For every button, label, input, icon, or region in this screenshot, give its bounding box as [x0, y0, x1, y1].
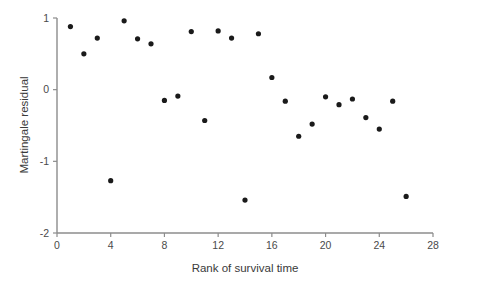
data-point [390, 99, 395, 104]
data-point [95, 35, 100, 40]
data-point [189, 29, 194, 34]
x-tick-label: 24 [373, 239, 385, 251]
data-point [336, 102, 341, 107]
y-tick-label: 0 [43, 83, 49, 95]
x-tick-label: 16 [266, 239, 278, 251]
data-point [202, 118, 207, 123]
data-point [122, 18, 127, 23]
data-point [363, 115, 368, 120]
y-tick-label: 1 [43, 12, 49, 24]
data-point [283, 99, 288, 104]
y-axis-title: Martingale residual [18, 76, 30, 173]
data-point [296, 134, 301, 139]
x-tick-label: 20 [320, 239, 332, 251]
y-axis-ticks: 10-1-2 [40, 12, 57, 239]
data-point [68, 24, 73, 29]
x-tick-label: 4 [108, 239, 114, 251]
data-point [216, 28, 221, 33]
data-point-group [68, 18, 409, 202]
data-point [404, 194, 409, 199]
data-point [135, 36, 140, 41]
x-tick-label: 12 [212, 239, 224, 251]
data-point [175, 94, 180, 99]
data-point [81, 51, 86, 56]
x-tick-label: 28 [427, 239, 439, 251]
data-point [148, 41, 153, 46]
data-point [350, 96, 355, 101]
x-tick-label: 0 [54, 239, 60, 251]
data-point [269, 75, 274, 80]
data-point [108, 178, 113, 183]
data-point [256, 31, 261, 36]
data-point [323, 94, 328, 99]
y-tick-label: -1 [40, 155, 49, 167]
data-point [377, 126, 382, 131]
data-point [242, 197, 247, 202]
x-tick-label: 8 [162, 239, 168, 251]
x-axis-title: Rank of survival time [192, 262, 299, 274]
y-tick-label: -2 [40, 227, 49, 239]
data-point [310, 121, 315, 126]
data-point [162, 98, 167, 103]
chart-canvas: 10-1-2 0481216202428 Rank of survival ti… [0, 0, 477, 282]
scatter-chart-figure: 10-1-2 0481216202428 Rank of survival ti… [0, 0, 477, 282]
data-point [229, 35, 234, 40]
x-axis-ticks: 0481216202428 [54, 233, 439, 251]
